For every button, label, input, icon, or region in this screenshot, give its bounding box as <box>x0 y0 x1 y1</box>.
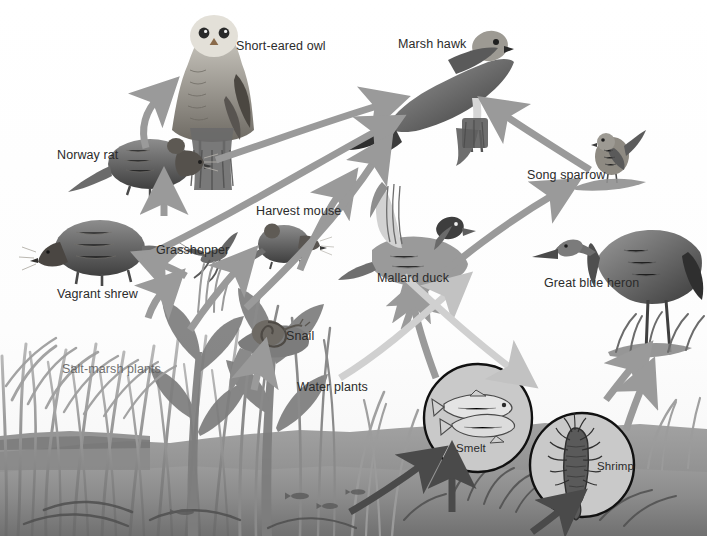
arrow-algae-to-shrimp <box>532 506 566 532</box>
arrow-plants-to-sparrow <box>412 192 558 302</box>
arrow-waterplants-to-smelt <box>350 462 426 512</box>
feeding-arrows-layer <box>0 0 707 536</box>
arrow-sparrow-to-hawk <box>500 112 590 170</box>
arrow-shrimp-to-heron <box>626 382 644 430</box>
arrow-smelt-to-heron <box>606 362 636 400</box>
arrow-duck-to-hawk <box>246 156 378 308</box>
arrow-plants-to-grasshopper <box>148 288 166 318</box>
food-web-diagram: Short-eared owl Marsh hawk Norway rat So… <box>0 0 707 536</box>
arrow-plants-to-harvest-mouse <box>190 266 240 330</box>
arrow-plants-to-snail <box>254 364 260 390</box>
arrow-rat-to-hawk <box>216 104 384 160</box>
arrow-rat-to-owl <box>144 96 160 148</box>
arrow-grasshopper-to-shrew <box>156 262 186 276</box>
